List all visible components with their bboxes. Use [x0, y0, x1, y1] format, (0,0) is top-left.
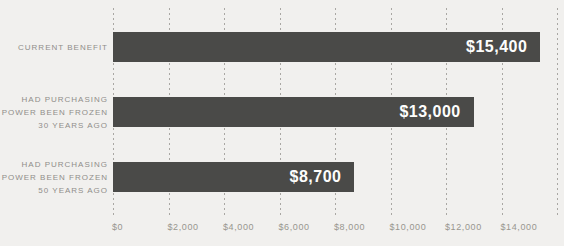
x-tick-14000: $14,000 — [501, 222, 538, 232]
category-label-line: POWER BEEN FROZEN — [0, 106, 108, 119]
gridline-16000 — [557, 8, 558, 218]
category-label-current-benefit: CURRENT BENEFIT — [0, 41, 108, 54]
x-axis: $0 $2,000 $4,000 $6,000 $8,000 $10,000 $… — [113, 222, 557, 236]
x-tick-2000: $2,000 — [168, 222, 199, 232]
category-label-line: HAD PURCHASING — [0, 93, 108, 106]
x-tick-4000: $4,000 — [223, 222, 254, 232]
benefit-bar-chart: $15,400 $13,000 $8,700 CURRENT BENEFIT H… — [0, 0, 564, 246]
bar-current-benefit: $15,400 — [113, 32, 540, 62]
x-tick-12000: $12,000 — [445, 222, 482, 232]
x-tick-10000: $10,000 — [390, 222, 427, 232]
bar-value-label: $8,700 — [289, 168, 341, 186]
category-label-line: CURRENT BENEFIT — [0, 41, 108, 54]
bar-frozen-30-years: $13,000 — [113, 97, 474, 127]
category-label-line: HAD PURCHASING — [0, 158, 108, 171]
category-label-line: 30 YEARS AGO — [0, 119, 108, 132]
bar-frozen-50-years: $8,700 — [113, 162, 354, 192]
x-tick-0: $0 — [112, 222, 123, 232]
category-label-frozen-50-years: HAD PURCHASING POWER BEEN FROZEN 50 YEAR… — [0, 158, 108, 197]
category-label-line: 50 YEARS AGO — [0, 184, 108, 197]
category-label-frozen-30-years: HAD PURCHASING POWER BEEN FROZEN 30 YEAR… — [0, 93, 108, 132]
plot-area: $15,400 $13,000 $8,700 — [113, 8, 557, 218]
bar-value-label: $13,000 — [399, 103, 460, 121]
bar-value-label: $15,400 — [466, 38, 527, 56]
x-tick-6000: $6,000 — [279, 222, 310, 232]
category-label-line: POWER BEEN FROZEN — [0, 171, 108, 184]
x-tick-8000: $8,000 — [334, 222, 365, 232]
